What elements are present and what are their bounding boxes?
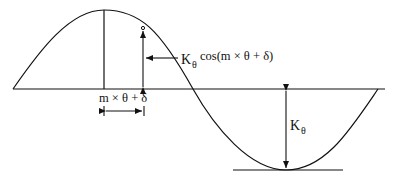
depth-label: K xyxy=(290,118,300,133)
phase-label: m × θ + δ xyxy=(99,91,147,105)
curve-point xyxy=(141,26,144,29)
amplitude-label: K xyxy=(181,52,191,67)
cosine-curve xyxy=(13,10,378,170)
cos-expression: cos(m × θ + δ) xyxy=(200,49,273,63)
depth-subscript: θ xyxy=(301,125,306,136)
cosine-potential-diagram: K θ cos(m × θ + δ) m × θ + δ K θ xyxy=(0,0,399,184)
amplitude-subscript: θ xyxy=(192,59,197,70)
